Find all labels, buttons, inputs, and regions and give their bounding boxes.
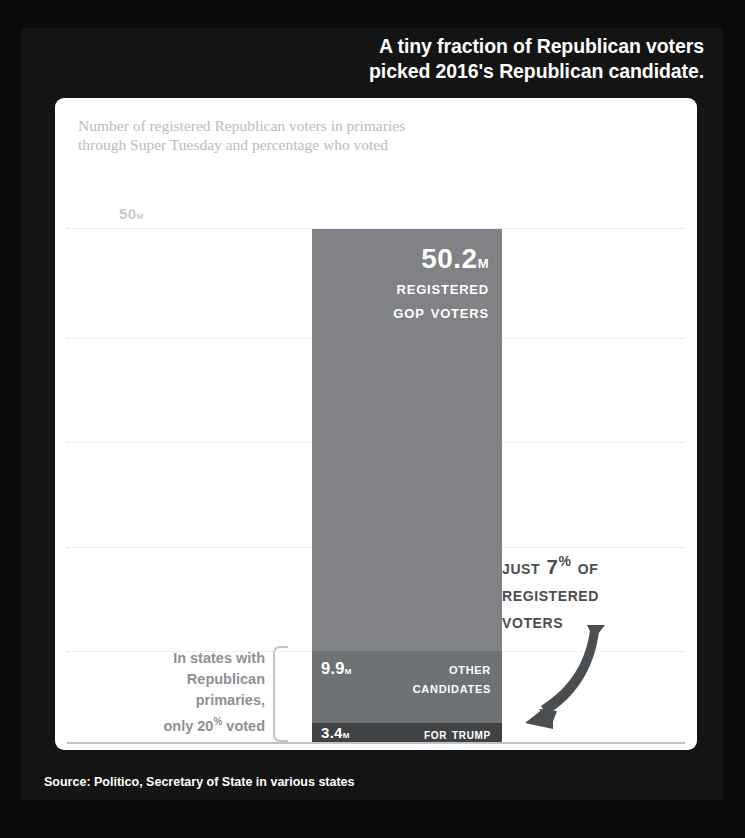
chart-baseline — [67, 742, 685, 744]
chart-subtitle: Number of registered Republican voters i… — [78, 116, 508, 154]
callout-line-1-post: of — [572, 555, 599, 578]
bar-other-number: 9.9 — [321, 659, 345, 677]
bar-segment-for-trump: 3.4M for Trump — [312, 723, 502, 742]
left-note-line-1: In states with — [173, 650, 265, 666]
chart-panel: Number of registered Republican voters i… — [55, 98, 697, 750]
bar-other-unit: M — [345, 663, 352, 677]
left-note-line-4-pre: only 20 — [163, 718, 213, 734]
curved-arrow-icon — [495, 623, 615, 738]
bar-segment-other-candidates: 9.9M Other Candidates — [312, 651, 502, 723]
axis-tick-value: 50 — [119, 205, 137, 222]
callout-line-2: Registered — [502, 582, 599, 605]
bar-total-label-line-2: GOP Voters — [393, 301, 489, 322]
left-note-line-4-post: voted — [222, 718, 265, 734]
left-note-line-2: Republican — [187, 671, 265, 687]
bar-trump-value: 3.4M — [321, 724, 350, 741]
y-axis-tick-label-50m: 50M — [119, 205, 144, 222]
callout-annotation: Just 7% of Registered Voters — [502, 548, 687, 634]
bar-total-value: 50.2M — [312, 243, 489, 275]
title-line-1: A tiny fraction of Republican voters — [379, 35, 704, 57]
bar-total-unit: M — [478, 251, 489, 272]
bracket-annotation — [273, 646, 288, 742]
bar-total-number: 50.2 — [421, 243, 478, 274]
page-title: A tiny fraction of Republican voters pic… — [64, 34, 704, 84]
bar-other-label-line-1: Other — [449, 660, 491, 677]
bar-trump-unit: M — [343, 727, 350, 741]
left-note-percent-sign: % — [213, 716, 222, 727]
subtitle-line-1: Number of registered Republican voters i… — [78, 117, 405, 134]
callout-percent-sign: % — [558, 553, 571, 569]
infographic-card: A tiny fraction of Republican voters pic… — [22, 28, 722, 800]
bar-other-value: 9.9M — [321, 659, 352, 678]
bar-total-label-line-1: Registered — [396, 277, 489, 298]
bar-total-label: Registered GOP Voters — [312, 276, 489, 324]
axis-tick-unit: M — [137, 209, 144, 221]
bar-segment-registered-gop-voters: 50.2M Registered GOP Voters — [312, 229, 502, 651]
bar-other-label: Other Candidates — [413, 659, 491, 697]
footer-band: Source: Politico, Secretary of State in … — [22, 768, 722, 800]
title-line-2: picked 2016's Republican candidate. — [369, 60, 704, 82]
callout-line-1-pre: Just 7 — [502, 555, 558, 578]
left-annotation-note: In states with Republican primaries, onl… — [117, 648, 265, 737]
source-text: Source: Politico, Secretary of State in … — [44, 775, 355, 789]
left-note-line-3: primaries, — [196, 692, 265, 708]
bar-other-label-line-2: Candidates — [413, 679, 491, 696]
bar-trump-number: 3.4 — [321, 724, 343, 741]
subtitle-line-2: through Super Tuesday and percentage who… — [78, 136, 388, 153]
header-band: A tiny fraction of Republican voters pic… — [22, 28, 722, 98]
